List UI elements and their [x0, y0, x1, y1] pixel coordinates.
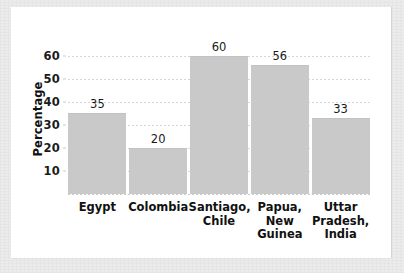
- y-tick-mark: [63, 170, 66, 171]
- y-tick-label: 40: [44, 95, 60, 109]
- bar-value-label: 33: [333, 102, 348, 116]
- x-axis-category-line: New: [249, 215, 310, 229]
- y-tick-mark: [63, 78, 66, 79]
- y-tick-label: 20: [44, 141, 60, 155]
- x-axis-category-line: Pradesh,: [310, 215, 371, 229]
- x-axis-category-line: Chile: [189, 215, 250, 229]
- bar: 35: [68, 113, 126, 194]
- bar-value-label: 56: [272, 49, 287, 63]
- plot-area: 10203040506035Egypt20Colombia60Santiago,…: [67, 44, 371, 194]
- bar: 60: [190, 56, 248, 194]
- bar: 20: [129, 148, 187, 194]
- y-tick-label: 10: [44, 164, 60, 178]
- x-axis-category-label: Santiago,Chile: [189, 201, 250, 228]
- x-axis-category-line: Santiago,: [189, 201, 250, 215]
- y-tick-mark: [63, 101, 66, 102]
- figure-frame: Percentage 10203040506035Egypt20Colombia…: [0, 0, 404, 273]
- x-axis-category-line: Egypt: [67, 201, 128, 215]
- x-axis-category-label: Egypt: [67, 201, 128, 215]
- x-axis-category-label: Papua,NewGuinea: [249, 201, 310, 242]
- y-tick-mark: [63, 55, 66, 56]
- x-axis-category-line: Uttar: [310, 201, 371, 215]
- x-axis-category-line: India: [310, 228, 371, 242]
- bar: 56: [251, 65, 309, 194]
- y-axis-title-text: Percentage: [30, 82, 44, 157]
- x-axis-category-label: UttarPradesh,India: [310, 201, 371, 242]
- chart-panel: Percentage 10203040506035Egypt20Colombia…: [11, 7, 391, 258]
- y-tick-mark: [63, 124, 66, 125]
- y-tick-label: 50: [44, 72, 60, 86]
- y-tick-label: 60: [44, 49, 60, 63]
- y-axis-title: Percentage: [29, 44, 45, 194]
- x-axis-category-line: Colombia: [128, 201, 189, 215]
- y-tick-mark: [63, 147, 66, 148]
- bar-value-label: 60: [212, 40, 227, 54]
- x-axis-category-label: Colombia: [128, 201, 189, 215]
- bar-value-label: 20: [151, 132, 166, 146]
- bar: 33: [312, 118, 370, 194]
- axis-baseline: [67, 194, 371, 195]
- x-axis-category-line: Papua,: [249, 201, 310, 215]
- y-tick-label: 30: [44, 118, 60, 132]
- x-axis-category-line: Guinea: [249, 228, 310, 242]
- bar-value-label: 35: [90, 97, 105, 111]
